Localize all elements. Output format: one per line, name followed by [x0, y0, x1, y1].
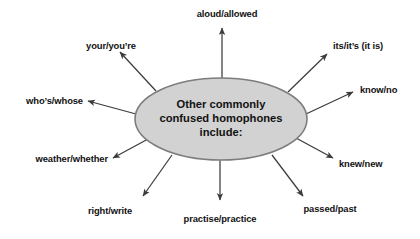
arrow-right-write	[143, 155, 172, 196]
arrow-know-no	[306, 92, 353, 114]
diagram-canvas: Other commonly confused homophones inclu…	[0, 0, 420, 239]
spoke-label-your-youre: your/you’re	[86, 41, 136, 50]
center-line-2: confused homophones	[159, 112, 282, 124]
center-line-1: Other commonly	[177, 98, 267, 110]
spoke-label-passed-past: passed/past	[303, 204, 356, 213]
spoke-label-whos-whose: who’s/whose	[26, 96, 83, 105]
spoke-label-know-no: know/no	[360, 85, 397, 94]
spoke-label-aloud-allowed: aloud/allowed	[197, 9, 258, 18]
center-line-3: include:	[200, 126, 243, 138]
arrow-passed-past	[272, 155, 303, 196]
arrow-your-youre	[120, 52, 156, 91]
spoke-label-weather-whether: weather/whether	[36, 154, 108, 163]
spoke-label-right-write: right/write	[88, 206, 132, 215]
arrow-knew-new	[296, 138, 333, 158]
homophones-diagram: Other commonly confused homophones inclu…	[0, 0, 420, 239]
arrow-whos-whose	[88, 101, 136, 114]
arrow-its-its	[288, 54, 327, 92]
spoke-label-practise-practice: practise/practice	[184, 214, 257, 223]
spoke-label-knew-new: knew/new	[339, 159, 382, 168]
arrow-weather-whether	[113, 139, 148, 158]
spoke-label-its-its: its/it’s (it is)	[333, 41, 383, 50]
